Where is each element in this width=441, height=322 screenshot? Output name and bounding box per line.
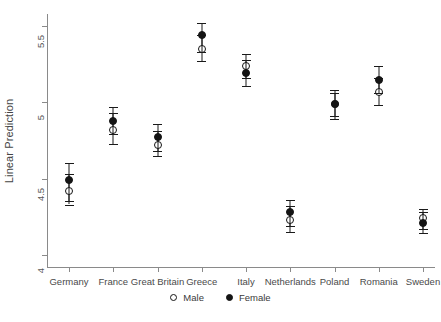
y-axis-title-label: Linear Prediction — [3, 98, 15, 182]
confidence-interval-cap-upper — [374, 66, 383, 67]
y-tick-label-5: 5 — [35, 101, 46, 135]
confidence-interval-cap-lower — [374, 93, 383, 94]
x-tick-italy — [246, 267, 247, 272]
confidence-interval-cap-lower — [330, 119, 339, 120]
confidence-interval-cap-lower — [286, 226, 295, 227]
x-tick-poland — [335, 267, 336, 272]
marker-female — [331, 100, 339, 108]
confidence-interval-cap-upper — [419, 209, 428, 210]
confidence-interval-cap-lower — [242, 86, 251, 87]
x-tick-label-poland: Poland — [320, 276, 350, 287]
x-tick-france — [113, 267, 114, 272]
marker-female — [65, 176, 73, 184]
confidence-interval-cap-lower — [153, 156, 162, 157]
confidence-interval-cap-lower — [109, 144, 118, 145]
x-tick-label-france: France — [98, 276, 128, 287]
confidence-interval-cap-lower — [419, 233, 428, 234]
marker-female — [198, 31, 206, 39]
legend-label: Female — [239, 292, 271, 303]
chart-container: Linear Prediction 44.555.5 GermanyFrance… — [0, 0, 441, 322]
confidence-interval-cap-upper — [153, 124, 162, 125]
confidence-interval-cap-lower — [286, 232, 295, 233]
y-tick-label-4.5: 4.5 — [35, 177, 46, 211]
y-tick-label-4: 4 — [35, 253, 46, 287]
x-tick-label-greece: Greece — [186, 276, 217, 287]
y-tick-label-5.5: 5.5 — [35, 25, 46, 59]
confidence-interval-cap-upper — [242, 54, 251, 55]
x-tick-label-italy: Italy — [237, 276, 254, 287]
marker-female — [286, 208, 294, 216]
x-tick-label-germany: Germany — [49, 276, 88, 287]
x-tick-netherlands — [290, 267, 291, 272]
confidence-interval-cap-lower — [65, 205, 74, 206]
confidence-interval-cap-lower — [197, 61, 206, 62]
x-tick-sweden — [423, 267, 424, 272]
confidence-interval-cap-upper — [242, 60, 251, 61]
open-circle-icon — [170, 294, 177, 301]
plot-area: 44.555.5 GermanyFranceGreat BritainGreec… — [47, 14, 435, 267]
legend-item-female[interactable]: Female — [226, 292, 271, 303]
marker-female — [154, 133, 162, 141]
legend-item-male[interactable]: Male — [170, 292, 204, 303]
confidence-interval-cap-lower — [374, 105, 383, 106]
cropped-title-strip — [47, 0, 435, 11]
confidence-interval-cap-lower — [197, 52, 206, 53]
x-tick-romania — [379, 267, 380, 272]
y-axis-line — [47, 14, 48, 267]
confidence-interval-cap-upper — [286, 200, 295, 201]
x-axis-line — [47, 267, 435, 268]
filled-circle-icon — [226, 294, 233, 301]
confidence-interval-cap-upper — [330, 90, 339, 91]
marker-female — [375, 76, 383, 84]
marker-female — [242, 69, 250, 77]
x-tick-label-great-britain: Great Britain — [131, 276, 184, 287]
y-axis-title: Linear Prediction — [2, 14, 16, 267]
marker-female — [109, 117, 117, 125]
x-tick-greece — [202, 267, 203, 272]
chart-legend: MaleFemale — [0, 292, 441, 303]
confidence-interval-cap-upper — [197, 23, 206, 24]
confidence-interval-cap-lower — [65, 201, 74, 202]
x-tick-great-britain — [158, 267, 159, 272]
x-tick-germany — [69, 267, 70, 272]
confidence-interval-cap-lower — [153, 151, 162, 152]
marker-female — [419, 219, 427, 227]
confidence-interval-cap-lower — [109, 134, 118, 135]
confidence-interval-cap-upper — [109, 107, 118, 108]
confidence-interval-cap-upper — [419, 212, 428, 213]
confidence-interval-cap-upper — [65, 163, 74, 164]
legend-label: Male — [183, 292, 204, 303]
x-tick-label-netherlands: Netherlands — [265, 276, 316, 287]
x-tick-label-sweden: Sweden — [406, 276, 440, 287]
x-tick-label-romania: Romania — [360, 276, 398, 287]
